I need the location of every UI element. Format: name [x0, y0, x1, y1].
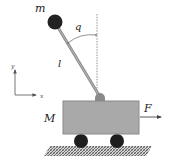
angle-arc-tick [95, 34, 97, 36]
label-force: F [143, 102, 152, 115]
cart-wheel-right [110, 134, 124, 148]
label-axis-y: y [10, 62, 15, 70]
inverted-pendulum-diagram: m q l M F y x [0, 0, 171, 164]
pivot-joint [95, 93, 105, 101]
angle-arc-tick [67, 42, 69, 44]
cart-body [63, 101, 139, 134]
label-rod-length: l [58, 58, 61, 69]
label-pendulum-mass: m [35, 2, 45, 15]
angle-arc [68, 35, 96, 43]
pendulum-mass-ball [48, 15, 63, 30]
label-angle: q [75, 21, 81, 32]
label-cart-mass: M [43, 112, 56, 125]
ground-surface [44, 146, 152, 156]
cart-wheel-left [74, 134, 88, 148]
label-axis-x: x [40, 92, 44, 99]
